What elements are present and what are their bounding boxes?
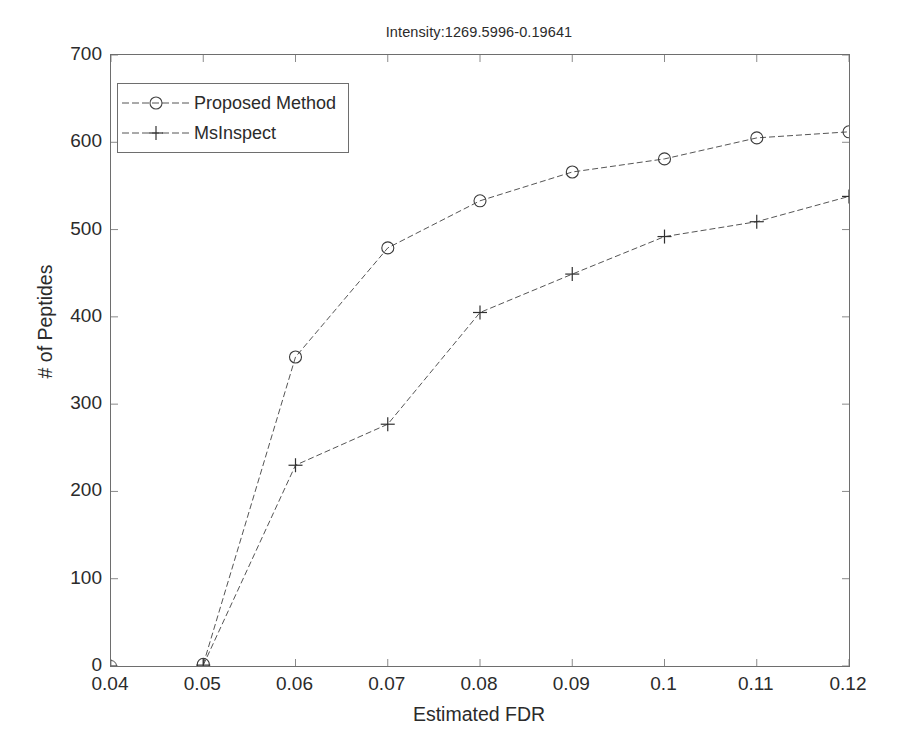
x-tick-label: 0.04 xyxy=(65,673,155,695)
y-axis-label: # of Peptides xyxy=(34,222,57,422)
series-msinspect xyxy=(196,189,849,666)
x-tick-label: 0.08 xyxy=(434,673,524,695)
series-proposed-method xyxy=(197,126,849,666)
x-tick-label: 0.07 xyxy=(342,673,432,695)
data-point-plus-marker xyxy=(842,189,849,203)
data-point-circle-marker xyxy=(566,166,578,178)
x-tick-label: 0.11 xyxy=(711,673,801,695)
x-tick-label: 0.1 xyxy=(619,673,709,695)
legend-item-msinspect: MsInspect xyxy=(118,118,350,148)
data-point-plus-marker xyxy=(565,267,579,281)
data-point-plus-marker xyxy=(381,417,395,431)
y-tick-label: 200 xyxy=(38,479,102,501)
legend-marker-plus-icon xyxy=(118,120,194,146)
data-point-plus-marker xyxy=(473,305,487,319)
y-tick-label: 600 xyxy=(38,130,102,152)
x-axis-tick-labels: 0.040.050.060.070.080.090.10.110.12 xyxy=(110,673,848,703)
chart-legend: Proposed Method MsInspect xyxy=(117,83,349,153)
x-tick-label: 0.05 xyxy=(157,673,247,695)
legend-label: Proposed Method xyxy=(194,94,336,112)
data-point-plus-marker xyxy=(658,230,672,244)
origin-marker xyxy=(111,661,117,667)
x-axis-label: Estimated FDR xyxy=(110,703,848,726)
data-point-plus-marker xyxy=(750,215,764,229)
legend-marker-circle-icon xyxy=(118,90,194,116)
x-tick-label: 0.06 xyxy=(250,673,340,695)
legend-label: MsInspect xyxy=(194,124,276,142)
x-tick-label: 0.12 xyxy=(803,673,893,695)
x-tick-label: 0.09 xyxy=(526,673,616,695)
y-tick-label: 700 xyxy=(38,43,102,65)
chart-title: Intensity:1269.5996-0.19641 xyxy=(110,24,848,40)
series-layer xyxy=(111,126,849,666)
legend-item-proposed-method: Proposed Method xyxy=(118,88,350,118)
y-tick-label: 100 xyxy=(38,567,102,589)
data-point-plus-marker xyxy=(289,458,303,472)
data-point-plus-marker xyxy=(196,658,210,666)
chart-figure: Intensity:1269.5996-0.19641 010020030040… xyxy=(0,0,909,755)
